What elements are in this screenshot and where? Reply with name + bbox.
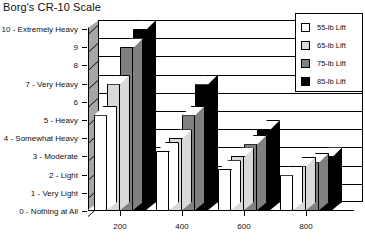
x-axis-label: 800 xyxy=(299,222,312,231)
y-tick-outer xyxy=(82,29,87,30)
chart-container: Borg's CR-10 Scale 0 - Nothing at All1 -… xyxy=(0,0,365,244)
bar-side xyxy=(168,142,179,211)
y-tick-outer xyxy=(82,211,87,212)
legend-item[interactable]: 55-lb Lift xyxy=(296,18,362,36)
y-axis-label: 5 - Heavy xyxy=(44,116,78,125)
legend-swatch-icon xyxy=(301,41,310,50)
bar-side xyxy=(331,147,342,211)
legend-label: 65-lb Lift xyxy=(317,41,346,50)
legend-item[interactable]: 65-lb Lift xyxy=(296,36,362,54)
x-axis-label: 200 xyxy=(113,222,126,231)
bar-side xyxy=(256,135,267,211)
x-tick xyxy=(306,211,307,216)
y-tick-outer xyxy=(82,120,87,121)
bar-front xyxy=(280,175,293,211)
x-axis-label: 600 xyxy=(237,222,250,231)
bar-front xyxy=(218,169,231,211)
legend-swatch-icon xyxy=(301,23,310,32)
y-tick-outer xyxy=(82,138,87,139)
y-axis-label: 7 - Very Heavy xyxy=(26,79,78,88)
y-axis-label: 9 xyxy=(74,43,78,52)
x-tick xyxy=(244,211,245,216)
legend-swatch-icon xyxy=(301,77,310,86)
bar-side xyxy=(145,20,156,211)
bar-front xyxy=(156,151,169,211)
chart-legend: 55-lb Lift65-lb Lift75-lb Lift85-lb Lift xyxy=(295,13,363,92)
y-axis-label: 8 xyxy=(74,61,78,70)
x-tick xyxy=(182,211,183,216)
bar-side xyxy=(181,129,192,211)
y-tick-outer xyxy=(82,175,87,176)
y-axis-label: 10 - Extremely Heavy xyxy=(2,25,78,34)
y-axis-label: 2 - Light xyxy=(49,170,78,179)
bar-front xyxy=(94,115,107,211)
y-axis-label: 1 - Very Light xyxy=(31,188,78,197)
y-axis-label: 4 - Somewhat Heavy xyxy=(4,134,78,143)
y-tick-outer xyxy=(82,47,87,48)
y-axis-label: 6 xyxy=(74,97,78,106)
y-axis-labels: 0 - Nothing at All1 - Very Light2 - Ligh… xyxy=(0,20,86,220)
y-tick-outer xyxy=(82,65,87,66)
bar-side xyxy=(132,38,143,211)
y-axis-label: 3 - Moderate xyxy=(33,152,78,161)
bar-side xyxy=(269,120,280,211)
legend-item[interactable]: 85-lb Lift xyxy=(296,72,362,90)
bar-side xyxy=(194,106,205,211)
legend-label: 85-lb Lift xyxy=(317,77,346,86)
y-tick-outer xyxy=(82,156,87,157)
chart-title: Borg's CR-10 Scale xyxy=(3,1,101,13)
bar-side xyxy=(243,147,254,211)
legend-label: 75-lb Lift xyxy=(317,59,346,68)
bar-side xyxy=(119,75,130,211)
y-axis-label: 0 - Nothing at All xyxy=(19,207,78,216)
bar-side xyxy=(106,106,117,211)
y-tick-outer xyxy=(82,193,87,194)
bar-side xyxy=(207,75,218,211)
legend-label: 55-lb Lift xyxy=(317,23,346,32)
y-tick-outer xyxy=(82,84,87,85)
legend-swatch-icon xyxy=(301,59,310,68)
legend-item[interactable]: 75-lb Lift xyxy=(296,54,362,72)
y-tick-outer xyxy=(82,102,87,103)
x-axis-labels: 200400600800 xyxy=(0,216,365,236)
x-tick xyxy=(120,211,121,216)
x-axis-label: 400 xyxy=(175,222,188,231)
